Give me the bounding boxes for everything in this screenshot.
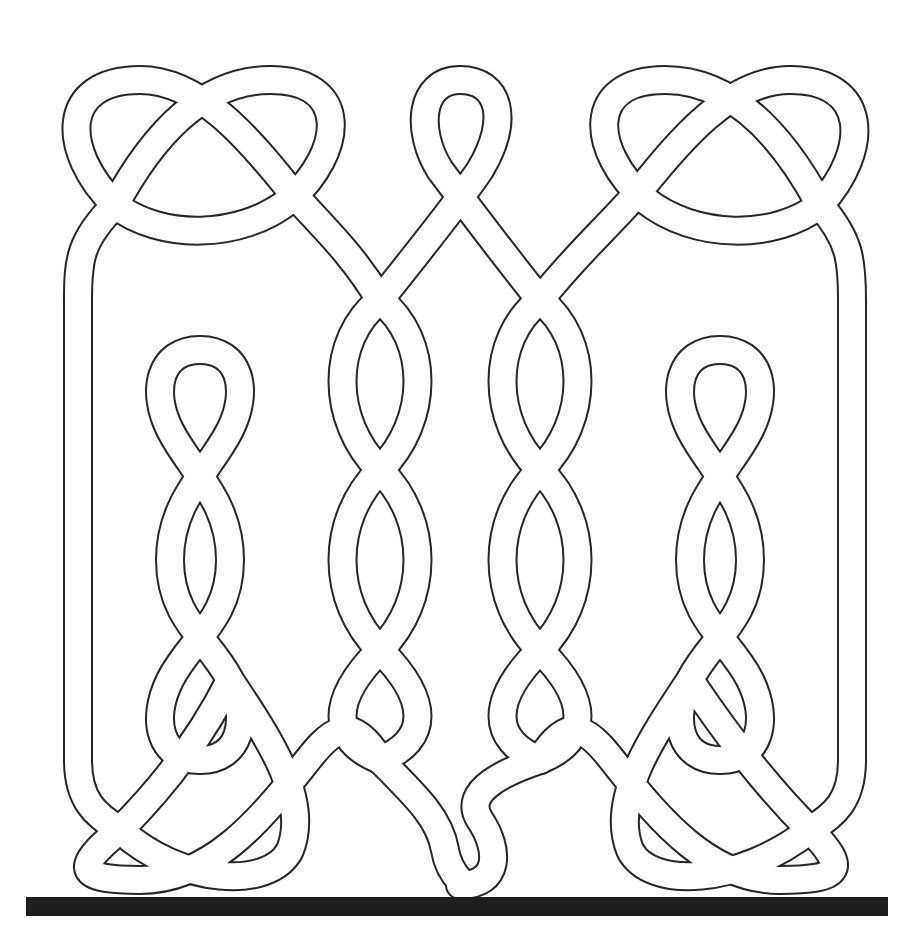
knot-strand-outer-frame-left: [78, 205, 120, 830]
base-bar: [26, 897, 888, 916]
knot-strand-top-middle-loop: [380, 80, 540, 300]
knot-strand-outer-frame-right: [810, 205, 852, 830]
knot-strand-top-left-loop: [76, 80, 380, 300]
knot-fill-layer: [76, 80, 854, 885]
knot-strand-bottom-middle-loop: [380, 760, 540, 885]
celtic-knot-drawing: [0, 0, 921, 949]
